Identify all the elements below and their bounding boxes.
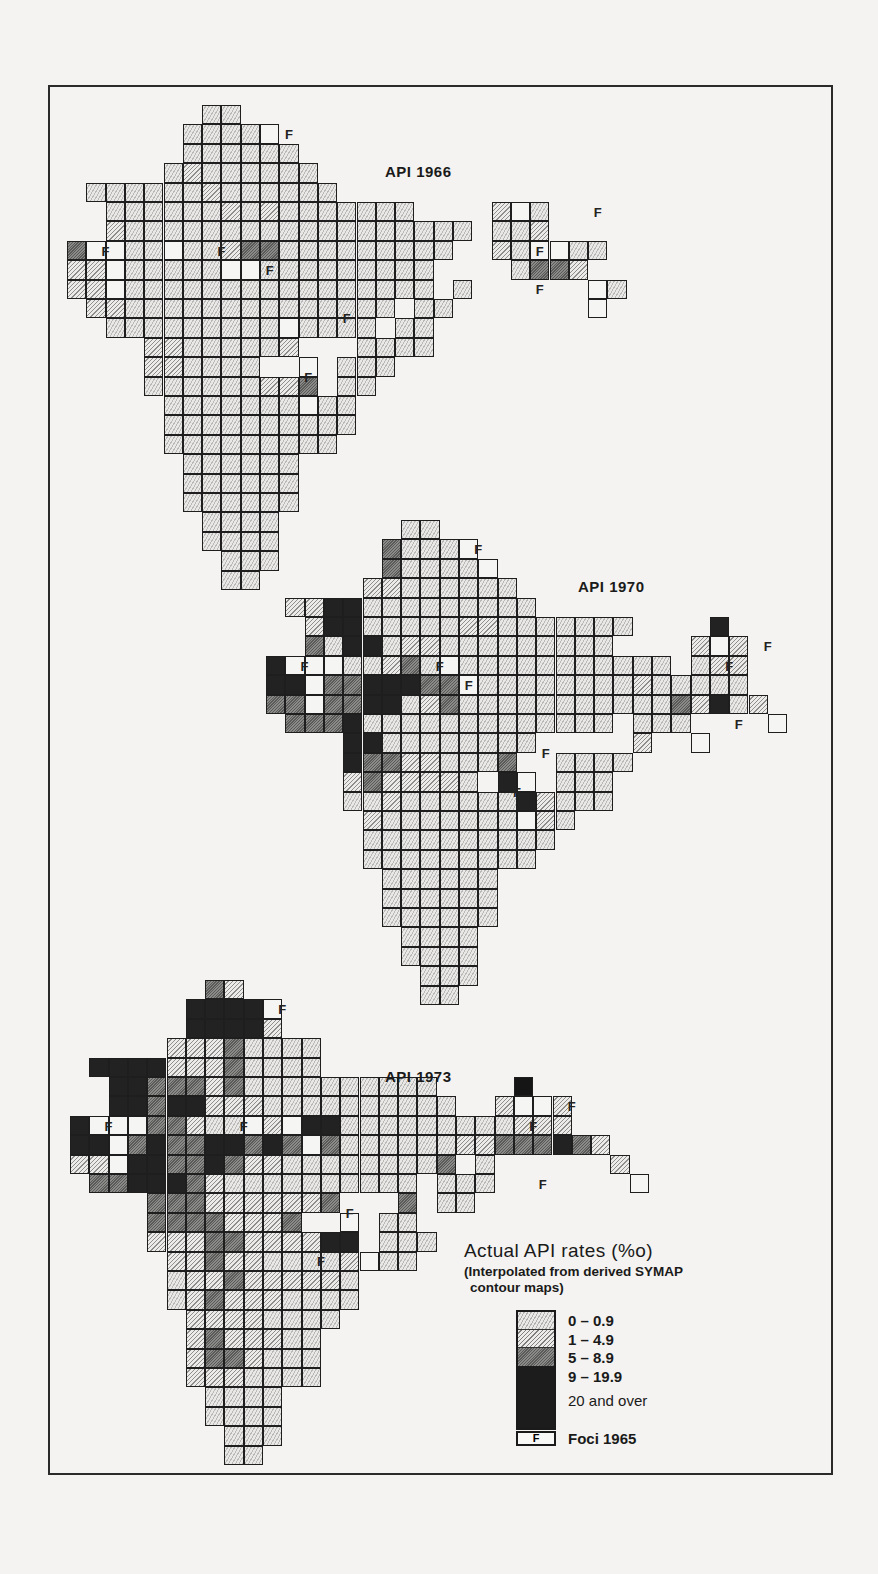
grid-cell (633, 733, 652, 752)
grid-cell (167, 1252, 186, 1271)
foci-marker: F (542, 745, 550, 760)
grid-cell (478, 733, 497, 752)
grid-cell (379, 1252, 398, 1271)
grid-cell (363, 830, 382, 849)
grid-cell (318, 435, 337, 454)
foci-cell (588, 280, 607, 299)
foci-marker: F (513, 784, 521, 799)
grid-cell (321, 1077, 340, 1096)
grid-cell (147, 1096, 166, 1115)
grid-cell (318, 318, 337, 337)
grid-cell (147, 1155, 166, 1174)
foci-cell (630, 1174, 649, 1193)
grid-cell (183, 163, 202, 182)
foci-cell (221, 260, 240, 279)
grid-cell (556, 636, 575, 655)
grid-cell (357, 260, 376, 279)
legend-labels: 0 – 0.9 1 – 4.9 5 – 8.9 9 – 19.9 20 and … (568, 1312, 647, 1411)
grid-cell (221, 105, 240, 124)
grid-cell (244, 1426, 263, 1445)
grid-cell (613, 695, 632, 714)
grid-cell (183, 260, 202, 279)
grid-cell (302, 1096, 321, 1115)
foci-marker: F (343, 311, 351, 326)
grid-cell (318, 396, 337, 415)
grid-cell (260, 396, 279, 415)
grid-cell (164, 299, 183, 318)
grid-cell (382, 792, 401, 811)
grid-cell (337, 221, 356, 240)
grid-cell (147, 1116, 166, 1135)
grid-cell (224, 1213, 243, 1232)
grid-cell (241, 512, 260, 531)
grid-cell (517, 598, 536, 617)
grid-cell (224, 1310, 243, 1329)
grid-cell (382, 908, 401, 927)
grid-cell (89, 1155, 108, 1174)
grid-cell (498, 617, 517, 636)
grid-cell (279, 221, 298, 240)
grid-cell (478, 714, 497, 733)
grid-cell (205, 1271, 224, 1290)
grid-cell (591, 1135, 610, 1154)
grid-cell (221, 183, 240, 202)
grid-cell (440, 714, 459, 733)
grid-cell (517, 714, 536, 733)
grid-cell (282, 1310, 301, 1329)
grid-cell (202, 512, 221, 531)
grid-cell (379, 1155, 398, 1174)
grid-cell (395, 318, 414, 337)
grid-cell (318, 241, 337, 260)
grid-cell (478, 908, 497, 927)
grid-cell (459, 714, 478, 733)
grid-cell (167, 1290, 186, 1309)
grid-cell (183, 377, 202, 396)
grid-cell (263, 1213, 282, 1232)
grid-cell (498, 714, 517, 733)
grid-cell (285, 598, 304, 617)
grid-cell (128, 1155, 147, 1174)
grid-cell (305, 598, 324, 617)
grid-cell (224, 980, 243, 999)
grid-cell (282, 1193, 301, 1212)
grid-cell (302, 1349, 321, 1368)
legend-swatch-column (516, 1310, 556, 1430)
grid-cell (183, 318, 202, 337)
grid-cell (279, 377, 298, 396)
grid-cell (302, 1116, 321, 1135)
grid-cell (279, 163, 298, 182)
grid-cell (414, 221, 433, 240)
legend: Actual API rates (%o) (Interpolated from… (464, 1240, 824, 1296)
grid-cell (221, 435, 240, 454)
grid-cell (167, 1058, 186, 1077)
grid-cell (244, 1155, 263, 1174)
foci-marker: F (278, 1002, 286, 1017)
grid-cell (475, 1174, 494, 1193)
grid-cell (517, 695, 536, 714)
grid-cell (517, 656, 536, 675)
grid-cell (459, 617, 478, 636)
grid-cell (536, 695, 555, 714)
grid-cell (420, 636, 439, 655)
grid-cell (86, 183, 105, 202)
foci-cell (517, 811, 536, 830)
grid-cell (382, 675, 401, 694)
grid-cell (321, 1290, 340, 1309)
grid-cell (144, 318, 163, 337)
grid-cell (613, 753, 632, 772)
grid-cell (260, 454, 279, 473)
grid-cell (401, 617, 420, 636)
grid-cell (164, 183, 183, 202)
grid-cell (575, 792, 594, 811)
grid-cell (321, 1271, 340, 1290)
grid-cell (202, 299, 221, 318)
grid-cell (186, 1174, 205, 1193)
grid-cell (357, 221, 376, 240)
grid-cell (302, 1038, 321, 1057)
foci-cell (109, 1155, 128, 1174)
grid-cell (633, 656, 652, 675)
grid-cell (244, 1077, 263, 1096)
grid-cell (221, 396, 240, 415)
grid-cell (691, 656, 710, 675)
grid-cell (414, 299, 433, 318)
